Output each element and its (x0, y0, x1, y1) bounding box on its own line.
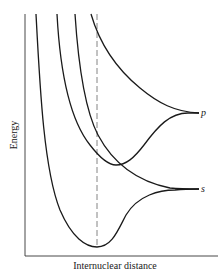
curve-to-p-with-shallow-well (57, 14, 199, 165)
repulsive-curve-to-p (91, 14, 199, 113)
asymptote-label-p: p (200, 107, 206, 118)
x-axis-label: Internuclear distance (73, 260, 157, 271)
repulsive-curve-to-s (75, 14, 199, 189)
asymptote-label-s: s (201, 183, 205, 194)
y-axis-label: Energy (8, 121, 19, 150)
energy-diagram: p s Energy Internuclear distance (0, 0, 224, 280)
